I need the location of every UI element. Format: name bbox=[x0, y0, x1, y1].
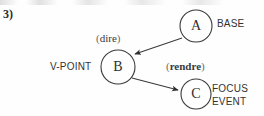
role-label-focus: FOCUS bbox=[212, 83, 248, 94]
paren-close-dire: ) bbox=[117, 32, 121, 44]
node-label-c: C bbox=[191, 86, 200, 101]
verb-annotation-dire: (dire) bbox=[96, 32, 120, 44]
figure-container: 3) A B C V-POINT BASE FOCUS EVENT (dire)… bbox=[0, 0, 264, 116]
verb-text-dire: dire bbox=[100, 32, 117, 44]
verb-annotation-rendre: (rendre) bbox=[166, 60, 205, 72]
paren-close-rendre: ) bbox=[201, 60, 205, 72]
verb-text-rendre: rendre bbox=[170, 60, 201, 72]
edge-b-to-c bbox=[132, 78, 178, 90]
node-label-a: A bbox=[191, 18, 202, 33]
node-label-b: B bbox=[113, 59, 122, 74]
edge-a-to-b bbox=[135, 38, 182, 54]
role-label-event: EVENT bbox=[212, 96, 246, 107]
role-label-v-point: V-POINT bbox=[50, 61, 91, 72]
role-label-base: BASE bbox=[217, 18, 244, 29]
